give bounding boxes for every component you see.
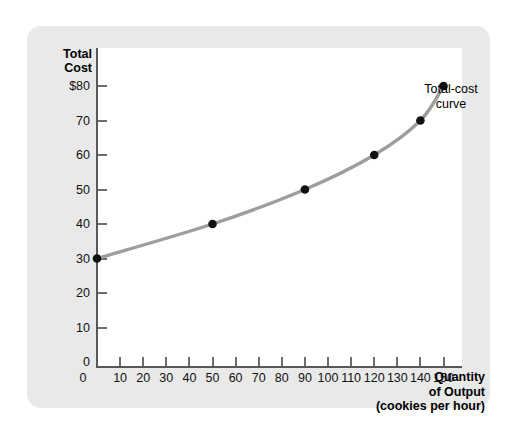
y-axis-tick-mark (98, 189, 107, 191)
x-axis-tick-label: 150 (429, 372, 459, 385)
y-axis-tick-label: 0 (38, 356, 90, 368)
x-axis-tick-mark (350, 357, 352, 366)
y-axis-tick-label: 60 (38, 149, 90, 161)
y-axis-tick-mark (98, 258, 107, 260)
x-axis-tick-mark (235, 357, 237, 366)
x-axis-tick-mark (373, 357, 375, 366)
x-axis-tick-mark (419, 357, 421, 366)
y-axis-tick-mark (98, 154, 107, 156)
curve-label-annotation: Total-cost curve (403, 82, 499, 111)
y-axis-line (96, 48, 98, 368)
x-axis-tick-mark (119, 357, 121, 366)
y-axis-tick-label: 70 (38, 115, 90, 127)
x-axis-title-line3: (cookies per hour) (376, 399, 485, 413)
x-axis-tick-mark (396, 357, 398, 366)
y-axis-tick-label: 40 (38, 218, 90, 230)
x-axis-tick-mark (165, 357, 167, 366)
y-axis-tick-label: 50 (38, 184, 90, 196)
x-axis-tick-mark (327, 357, 329, 366)
curve-label-line2: curve (403, 97, 499, 112)
y-axis-tick-mark (98, 223, 107, 225)
x-axis-tick-mark (142, 357, 144, 366)
x-axis-title-line2: of Output (429, 385, 485, 399)
y-axis-tick-mark (98, 85, 107, 87)
x-axis-tick-mark (258, 357, 260, 366)
y-axis-title-line2: Cost (64, 61, 92, 75)
y-axis-tick-mark (98, 120, 107, 122)
curve-label-line1: Total-cost (424, 82, 478, 96)
y-axis-tick-label: 20 (38, 287, 90, 299)
x-axis-tick-mark (443, 357, 445, 366)
y-axis-tick-label: 30 (38, 253, 90, 265)
y-axis-tick-label: 10 (38, 322, 90, 334)
y-axis-tick-mark (98, 327, 107, 329)
x-axis-tick-mark (281, 357, 283, 366)
y-axis-tick-mark (98, 292, 107, 294)
y-axis-tick-label: $80 (38, 80, 90, 92)
y-axis-title-line1: Total (63, 47, 92, 61)
y-axis-title: Total Cost (40, 47, 92, 75)
x-axis-tick-label: 0 (68, 372, 98, 385)
x-axis-tick-mark (212, 357, 214, 366)
x-axis-tick-mark (304, 357, 306, 366)
x-axis-line (96, 366, 462, 368)
x-axis-tick-mark (188, 357, 190, 366)
